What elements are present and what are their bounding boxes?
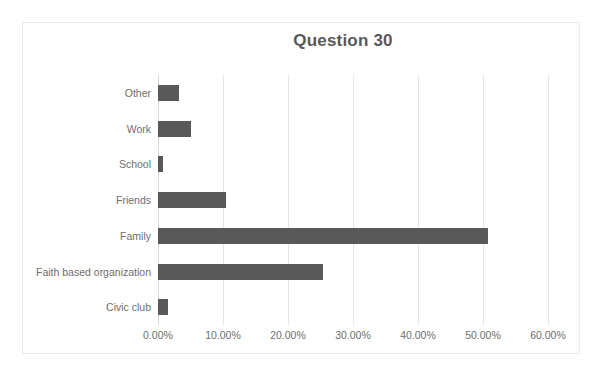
x-tick-label: 40.00% — [400, 329, 436, 341]
category-label: Friends — [116, 192, 151, 208]
x-tick-label: 10.00% — [205, 329, 241, 341]
bar-row: Faith based organization — [158, 254, 548, 290]
bar[interactable] — [158, 299, 168, 315]
x-tick-label: 50.00% — [465, 329, 501, 341]
x-tick-label: 20.00% — [270, 329, 306, 341]
bar-row: Other — [158, 75, 548, 111]
x-tick-label: 0.00% — [143, 329, 173, 341]
bar[interactable] — [158, 264, 323, 280]
x-tick-label: 30.00% — [335, 329, 371, 341]
category-label: Other — [125, 85, 151, 101]
plot-area: OtherWorkSchoolFriendsFamilyFaith based … — [158, 75, 548, 325]
bar[interactable] — [158, 228, 488, 244]
bar[interactable] — [158, 85, 179, 101]
x-axis: 0.00%10.00%20.00%30.00%40.00%50.00%60.00… — [158, 329, 548, 347]
bar[interactable] — [158, 121, 191, 137]
x-tick-label: 60.00% — [530, 329, 566, 341]
bar-row: Friends — [158, 182, 548, 218]
chart-container: Question 30 OtherWorkSchoolFriendsFamily… — [22, 22, 580, 354]
bar-row: School — [158, 146, 548, 182]
bar[interactable] — [158, 156, 163, 172]
bar-row: Family — [158, 218, 548, 254]
category-label: School — [119, 156, 151, 172]
category-label: Civic club — [106, 299, 151, 315]
chart-title: Question 30 — [163, 31, 523, 51]
bar-row: Civic club — [158, 289, 548, 325]
bar-series: OtherWorkSchoolFriendsFamilyFaith based … — [158, 75, 548, 325]
category-label: Work — [127, 121, 151, 137]
gridline — [548, 75, 549, 325]
bar[interactable] — [158, 192, 226, 208]
category-label: Family — [120, 228, 151, 244]
bar-row: Work — [158, 111, 548, 147]
category-label: Faith based organization — [36, 264, 151, 280]
